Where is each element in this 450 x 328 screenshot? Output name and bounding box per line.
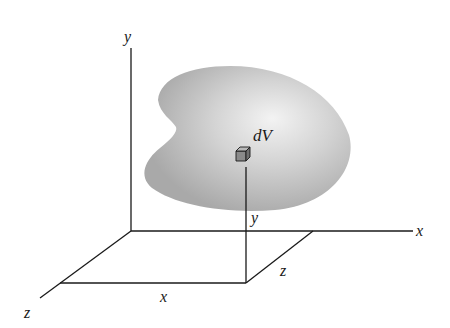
volume-element-diagram: y x z x z y dV <box>0 0 450 328</box>
y-axis-label: y <box>122 28 132 46</box>
x-distance-label: x <box>159 288 167 305</box>
volume-element-label: dV <box>253 126 275 145</box>
y-distance-label: y <box>249 209 259 227</box>
z-distance-label: z <box>279 262 287 279</box>
z-axis-line <box>40 231 131 298</box>
x-axis-label: x <box>415 222 423 239</box>
z-axis-label: z <box>23 304 31 321</box>
volume-element-cube-icon <box>236 147 250 161</box>
body-region <box>144 66 350 211</box>
